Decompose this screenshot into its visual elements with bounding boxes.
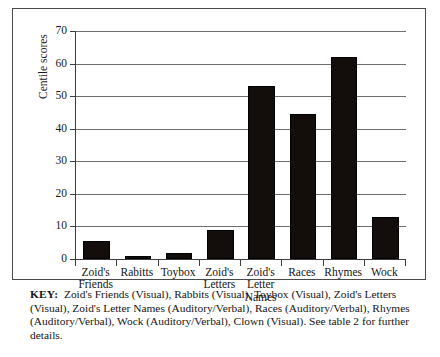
bar-slot bbox=[282, 31, 323, 259]
key-text: Zoid's Friends (Visual), Rabbits (Visual… bbox=[30, 288, 410, 341]
bar-slot bbox=[76, 31, 117, 259]
bar-slot bbox=[200, 31, 241, 259]
page-edge bbox=[0, 349, 440, 357]
bar-slot bbox=[117, 31, 158, 259]
x-tick-mark bbox=[405, 259, 406, 266]
y-tick-label: 0 bbox=[61, 253, 67, 265]
x-axis-label-line: Zoid's bbox=[241, 266, 280, 278]
bar-slot bbox=[365, 31, 406, 259]
bar-slot bbox=[324, 31, 365, 259]
x-axis-label-line: Rhymes bbox=[324, 266, 363, 278]
x-tick-mark bbox=[116, 259, 117, 266]
bar bbox=[207, 230, 233, 259]
y-tick-label: 50 bbox=[56, 90, 68, 102]
bar-slot bbox=[241, 31, 282, 259]
bar bbox=[248, 86, 274, 259]
key-label: KEY: bbox=[30, 288, 58, 300]
x-axis-label-line: Wock bbox=[365, 266, 404, 278]
bar-slot bbox=[159, 31, 200, 259]
y-tick-label: 40 bbox=[56, 123, 68, 135]
x-tick-mark bbox=[323, 259, 324, 266]
x-axis-label-line: Rabitts bbox=[117, 266, 156, 278]
y-tick-label: 70 bbox=[56, 25, 68, 37]
x-axis-label-line: Races bbox=[282, 266, 321, 278]
bar bbox=[290, 114, 316, 259]
x-tick-mark bbox=[75, 259, 76, 266]
y-tick-label: 60 bbox=[56, 58, 68, 70]
y-tick-label: 20 bbox=[56, 188, 68, 200]
x-tick-mark bbox=[158, 259, 159, 266]
plot-area: 010203040506070 bbox=[75, 31, 406, 260]
y-tick-label: 10 bbox=[56, 221, 68, 233]
x-tick-mark bbox=[199, 259, 200, 266]
x-axis-label-line: Toybox bbox=[159, 266, 198, 278]
x-axis-ticks-group bbox=[75, 259, 405, 266]
x-axis-label-line: Zoid's bbox=[200, 266, 239, 278]
bar bbox=[83, 241, 109, 259]
x-tick-mark bbox=[364, 259, 365, 266]
y-tick-label: 30 bbox=[56, 156, 68, 168]
chart-key: KEY: Zoid's Friends (Visual), Rabbits (V… bbox=[30, 288, 418, 342]
x-tick-mark bbox=[240, 259, 241, 266]
figure-frame: Centile scores 010203040506070 Zoid'sFri… bbox=[12, 8, 426, 280]
x-tick-mark bbox=[281, 259, 282, 266]
y-axis-title: Centile scores bbox=[37, 34, 49, 99]
bar bbox=[372, 217, 398, 259]
bar bbox=[331, 57, 357, 259]
x-axis-label-line: Zoid's bbox=[76, 266, 115, 278]
bar-series bbox=[76, 31, 406, 259]
